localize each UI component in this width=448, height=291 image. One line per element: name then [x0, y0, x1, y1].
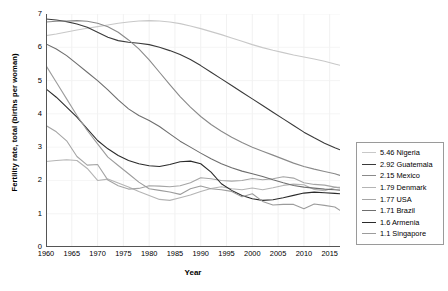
legend-item-label: 1.1 Singapore [380, 229, 426, 238]
plot-area [46, 14, 340, 247]
y-tick-label: 4 [20, 110, 42, 118]
legend-item-label: 1.77 USA [380, 195, 412, 204]
legend-item[interactable]: 1.6 Armenia [360, 217, 440, 229]
legend-item[interactable]: 1.79 Denmark [360, 182, 440, 194]
legend-item[interactable]: 5.46 Nigeria [360, 147, 440, 159]
x-tick-label: 2015 [315, 250, 345, 258]
legend-item-label: 1.79 Denmark [380, 183, 426, 192]
y-tick-label: 1 [20, 210, 42, 218]
legend-color-swatch [362, 164, 376, 165]
legend-item[interactable]: 2.92 Guatemala [360, 159, 440, 171]
legend-item[interactable]: 1.71 Brazil [360, 205, 440, 217]
y-axis-title: Fertility rate, total (births per woman) [10, 13, 19, 233]
legend-color-swatch [362, 199, 376, 200]
legend-color-swatch [362, 210, 376, 211]
y-tick-label: 7 [20, 10, 42, 18]
legend-color-swatch [362, 152, 376, 153]
y-tick-label: 2 [20, 176, 42, 184]
y-tick-label: 3 [20, 143, 42, 151]
legend-item[interactable]: 2.15 Mexico [360, 170, 440, 182]
chart-container: Fertility rate, total (births per woman)… [0, 0, 448, 291]
legend-item-label: 2.92 Guatemala [380, 160, 433, 169]
legend-item-label: 1.6 Armenia [380, 218, 419, 227]
legend-item[interactable]: 1.77 USA [360, 193, 440, 205]
line-chart-svg [46, 14, 340, 247]
legend-item-label: 2.15 Mexico [380, 171, 420, 180]
legend-color-swatch [362, 222, 376, 223]
legend-color-swatch [362, 175, 376, 176]
chart-legend: 5.46 Nigeria2.92 Guatemala2.15 Mexico1.7… [356, 142, 444, 245]
y-tick-label: 6 [20, 43, 42, 51]
legend-item-label: 1.71 Brazil [380, 206, 415, 215]
legend-color-swatch [362, 187, 376, 188]
legend-item-label: 5.46 Nigeria [380, 148, 420, 157]
y-tick-label: 5 [20, 77, 42, 85]
x-axis-title: Year [46, 268, 340, 277]
legend-item[interactable]: 1.1 Singapore [360, 228, 440, 240]
legend-color-swatch [362, 233, 376, 234]
